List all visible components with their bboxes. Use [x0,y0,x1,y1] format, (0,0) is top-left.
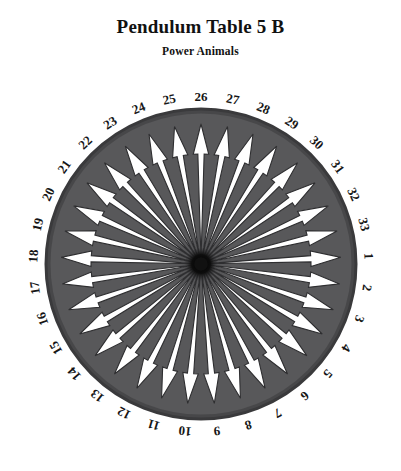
sector-number-label: 23 [101,113,120,133]
sector-number-label: 3 [351,313,367,325]
sector-number-label: 11 [146,416,162,434]
sector-number-label: 1 [361,252,376,259]
sector-number-label: 22 [75,132,95,152]
sector-number-label: 12 [115,404,133,423]
sector-number-label: 8 [243,417,254,433]
pendulum-wheel-svg: 1234567891011121314151617181920212223242… [0,0,401,471]
sector-number-label: 32 [344,185,363,203]
sector-number-label: 17 [26,280,43,295]
sector-number-label: 31 [328,157,348,176]
sector-number-label: 20 [39,185,58,203]
sector-number-label: 18 [25,249,41,263]
sector-number-label: 10 [178,423,192,439]
sector-number-label: 25 [161,90,177,107]
sector-number-label: 14 [64,364,84,384]
sector-number-label: 33 [355,216,373,233]
pendulum-wheel-container: 1234567891011121314151617181920212223242… [0,0,401,471]
center-hub-core [194,257,208,271]
sector-number-label: 27 [225,90,241,107]
sector-number-label: 15 [46,338,66,357]
pendulum-chart-page: Pendulum Table 5 B Power Animals 1234567… [0,0,401,471]
sector-number-label: 5 [320,367,336,382]
sector-number-label: 30 [307,132,327,152]
sector-number-label: 6 [297,388,312,404]
sector-number-label: 19 [29,216,47,233]
sector-number-label: 26 [195,89,209,104]
sector-number-label: 29 [282,113,301,133]
sector-number-label: 28 [255,99,273,118]
sector-number-label: 7 [271,405,284,422]
sector-number-label: 16 [33,310,52,328]
sector-number-label: 4 [338,341,354,355]
sector-number-label: 2 [359,284,375,293]
sector-number-label: 9 [213,423,221,439]
sector-number-label: 21 [54,157,74,176]
sector-number-label: 13 [87,386,107,406]
sector-number-label: 24 [130,98,148,117]
